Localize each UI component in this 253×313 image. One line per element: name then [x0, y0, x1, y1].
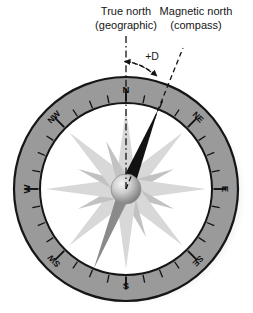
figure-canvas: N NE E SE S SW W NW True north (geograph…	[0, 0, 253, 313]
declination-arc-right	[125, 62, 158, 77]
true-north-label-line2: (geographic)	[95, 19, 157, 31]
magnetic-north-label-line1: Magnetic north	[160, 5, 233, 17]
bezel-label-e: E	[220, 186, 231, 192]
bezel-label-s: S	[123, 280, 129, 291]
declination-arc-left	[125, 62, 152, 73]
magnetic-north-label-line2: (compass)	[170, 19, 221, 31]
compass-declination-figure: N NE E SE S SW W NW True north (geograph…	[0, 0, 253, 313]
declination-label: +D	[145, 50, 159, 62]
true-north-label-line1: True north	[101, 5, 151, 17]
bezel-label-w: W	[21, 184, 32, 193]
